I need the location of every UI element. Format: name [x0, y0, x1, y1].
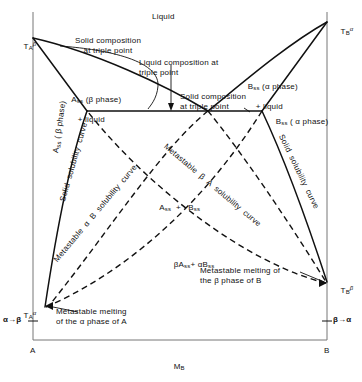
- axis-label-A-corner: A: [30, 346, 36, 356]
- axis-label-alpha-to-beta: α→β: [3, 315, 21, 325]
- phase-diagram-figure: Liquid Solid composition at triple point…: [0, 0, 362, 382]
- region-label-bss-alpha-phase: Bss ( α phase): [266, 107, 328, 137]
- bss-phase-rest: ( α phase): [288, 117, 329, 126]
- axis-tick-TB-alpha: TBα: [331, 16, 353, 47]
- MB-main: M: [174, 362, 181, 371]
- annotation-solid-comp-right-text: Solid composition at triple point: [180, 92, 246, 111]
- TA-alpha-sup: α: [33, 310, 37, 316]
- annotation-liquid-comp-text: Liquid composition at triple point: [139, 58, 218, 77]
- axis-label-beta-to-alpha: β→α: [333, 315, 351, 325]
- axis-tick-TB-beta: TBβ: [331, 275, 353, 306]
- TB-beta-sup: β: [350, 285, 354, 291]
- ass-vert-rest: ( β phase): [53, 100, 68, 141]
- ass-beta-rest: (β phase): [83, 95, 121, 104]
- axis-tick-TA-beta: TAβ: [14, 31, 36, 62]
- arrowhead-liquid-comp: [168, 103, 174, 111]
- ass-plus-bss-B-sub: ss: [194, 206, 200, 212]
- bss-alpha-rest: (α phase): [260, 82, 298, 91]
- region-label-liquid: Liquid: [152, 12, 175, 22]
- annotation-metastable-alpha-A-text: Metastable melting of the α phase of A: [56, 307, 127, 326]
- MB-sub: B: [181, 365, 185, 371]
- TB-alpha-sup: α: [350, 26, 354, 32]
- annotation-liquid-composition-triple-point: Liquid composition at triple point: [139, 58, 249, 78]
- axis-label-B-corner: B: [324, 346, 330, 356]
- ass-plus-bss-plus: +: [171, 203, 188, 212]
- annotation-metastable-melting-alpha-A: Metastable melting of the α phase of A: [56, 307, 186, 327]
- ass-vert-sub: ss: [55, 141, 62, 148]
- region-label-ass-plus-bss: Ass + Bss: [150, 193, 200, 223]
- annotation-metastable-beta-B-text: Metastable melting of the β phase of B: [200, 266, 280, 285]
- annotation-metastable-melting-beta-B: Metastable melting of the β phase of B: [200, 266, 310, 286]
- beta-ass-1: βA: [174, 260, 184, 269]
- annotation-solid-composition-triple-point-left: Solid composition at triple point: [60, 36, 156, 56]
- axis-label-MB: MB: [164, 352, 185, 382]
- annotation-solid-comp-left-text: Solid composition at triple point: [75, 36, 141, 55]
- TA-beta-sup: β: [33, 41, 37, 47]
